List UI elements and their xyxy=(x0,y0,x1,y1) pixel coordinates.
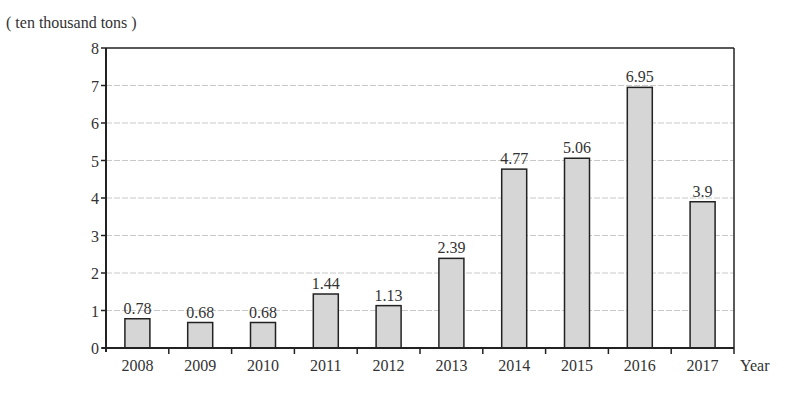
y-tick-label: 4 xyxy=(91,190,99,207)
value-label: 5.06 xyxy=(563,139,591,156)
bar-2015 xyxy=(565,158,590,348)
y-tick-label: 7 xyxy=(91,78,99,95)
value-label: 4.77 xyxy=(500,150,528,167)
x-tick-label: 2016 xyxy=(624,357,656,374)
y-tick-label: 0 xyxy=(91,340,99,357)
bar-2012 xyxy=(376,306,401,348)
bar-chart: 0123456780.7820080.6820090.6820101.44201… xyxy=(0,0,792,398)
y-tick-label: 8 xyxy=(91,40,99,57)
value-label: 1.13 xyxy=(375,287,403,304)
value-label: 1.44 xyxy=(312,275,340,292)
x-tick-label: 2011 xyxy=(310,357,341,374)
x-tick-label: 2017 xyxy=(687,357,719,374)
x-tick-label: 2009 xyxy=(184,357,216,374)
value-label: 2.39 xyxy=(437,239,465,256)
value-label: 6.95 xyxy=(626,68,654,85)
bar-2014 xyxy=(502,169,527,348)
x-tick-label: 2012 xyxy=(373,357,405,374)
y-tick-label: 1 xyxy=(91,303,99,320)
x-tick-label: 2015 xyxy=(561,357,593,374)
y-tick-label: 2 xyxy=(91,265,99,282)
x-axis-label: Year xyxy=(740,357,770,374)
value-label: 0.68 xyxy=(249,304,277,321)
bar-2009 xyxy=(188,323,213,349)
x-tick-label: 2008 xyxy=(121,357,153,374)
value-label: 0.78 xyxy=(123,300,151,317)
y-tick-label: 6 xyxy=(91,115,99,132)
bar-2016 xyxy=(627,87,652,348)
bar-2013 xyxy=(439,258,464,348)
value-label: 0.68 xyxy=(186,304,214,321)
bar-2017 xyxy=(690,202,715,348)
bar-2010 xyxy=(251,323,276,349)
y-tick-label: 3 xyxy=(91,228,99,245)
value-label: 3.9 xyxy=(693,183,713,200)
bar-2011 xyxy=(313,294,338,348)
x-tick-label: 2014 xyxy=(498,357,530,374)
x-tick-label: 2010 xyxy=(247,357,279,374)
y-tick-label: 5 xyxy=(91,153,99,170)
bar-2008 xyxy=(125,319,150,348)
x-tick-label: 2013 xyxy=(435,357,467,374)
